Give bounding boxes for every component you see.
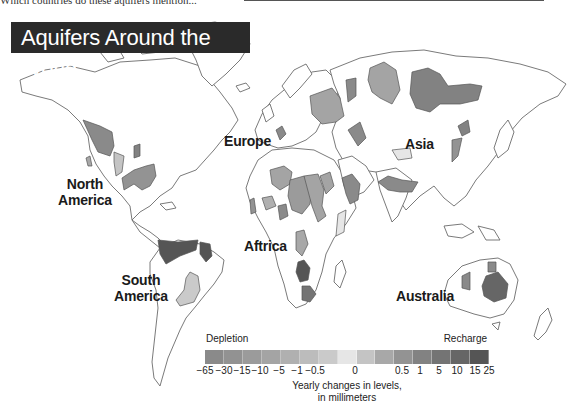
legend-swatch [319,350,338,364]
legend-swatch [413,350,432,364]
legend-tick: −65 [197,365,214,376]
legend-tick: 25 [483,365,494,376]
label-australia: Australia [396,288,454,304]
legend-caption-line1: Yearly changes in levels, [205,380,489,392]
label-south-america-line2: America [114,288,168,304]
legend-swatch [281,350,300,364]
legend-swatch [394,350,413,364]
legend-caption: Yearly changes in levels, in millimeters [205,380,489,404]
legend-tick: −0.5 [305,365,325,376]
legend-swatch [205,350,224,364]
legend-tick: −10 [252,365,269,376]
legend-recharge-label: Recharge [444,333,487,344]
legend-color-bar [205,350,489,364]
legend-caption-line2: in millimeters [205,392,489,404]
legend-swatch [375,350,394,364]
label-south-america-line1: South [114,272,168,288]
legend-swatch [338,350,357,364]
legend-swatch [451,350,470,364]
legend-tick: −1 [291,365,302,376]
legend-tick: 10 [451,365,462,376]
legend-tick: −30 [216,365,233,376]
label-north-america-line2: America [58,192,112,208]
legend-swatch [224,350,243,364]
aquifer-na-west [86,156,92,166]
aquifer-na-mid [134,144,140,158]
legend-tick: 5 [436,365,442,376]
aquifer-au-north [488,262,496,272]
label-africa: Aftrica [244,238,287,254]
label-europe: Europe [224,133,271,149]
legend-tick: 15 [469,365,480,376]
legend-swatch [357,350,376,364]
label-south-america: South America [114,272,168,304]
legend-ticks: −65−30−15−10−5−1−0.500.515101525 [205,365,489,377]
legend-swatch [243,350,262,364]
label-north-america-line1: North [58,176,112,192]
legend-swatch [470,350,489,364]
legend-ends: Depletion Recharge [205,333,489,347]
legend-tick: 0 [352,365,358,376]
legend-tick: −15 [234,365,251,376]
legend-tick: 1 [417,365,423,376]
label-asia: Asia [405,136,434,152]
legend-tick: 0.5 [395,365,409,376]
legend-depletion-label: Depletion [206,333,248,344]
label-north-america: North America [58,176,112,208]
legend-swatch [300,350,319,364]
legend-swatch [432,350,451,364]
legend-swatch [262,350,281,364]
map-title: Aquifers Around the World [11,22,250,53]
legend-tick: −5 [273,365,284,376]
legend: Depletion Recharge −65−30−15−10−5−1−0.50… [205,333,489,404]
